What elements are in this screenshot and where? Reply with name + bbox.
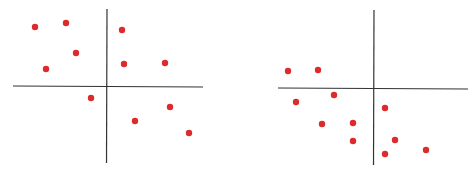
data-point xyxy=(63,20,69,26)
data-point xyxy=(285,68,291,74)
data-point xyxy=(382,151,388,157)
data-point xyxy=(423,147,429,153)
scatter-plot-left xyxy=(13,9,203,163)
data-point xyxy=(186,130,192,136)
data-point xyxy=(382,105,388,111)
data-point xyxy=(162,60,168,66)
data-point xyxy=(121,61,127,67)
data-point xyxy=(331,92,337,98)
data-point xyxy=(315,67,321,73)
data-point xyxy=(88,95,94,101)
data-point xyxy=(319,121,325,127)
data-point xyxy=(132,118,138,124)
data-point xyxy=(43,66,49,72)
data-point xyxy=(392,137,398,143)
data-point xyxy=(293,99,299,105)
y-axis xyxy=(374,10,375,165)
data-point xyxy=(167,104,173,110)
y-axis xyxy=(107,9,108,163)
scatter-plots xyxy=(0,0,475,170)
data-point xyxy=(350,120,356,126)
data-point xyxy=(350,138,356,144)
scatter-plot-right xyxy=(278,10,468,165)
data-point xyxy=(73,50,79,56)
data-point xyxy=(119,27,125,33)
x-axis xyxy=(278,88,468,89)
x-axis xyxy=(13,86,203,87)
data-point xyxy=(32,24,38,30)
